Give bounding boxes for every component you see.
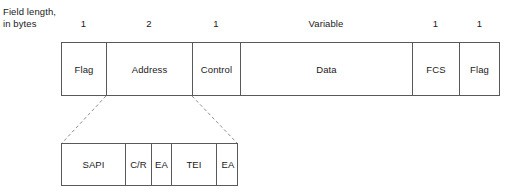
caption-line-1: Field length,: [3, 6, 56, 17]
sub-frame-cell-tei: TEI: [171, 144, 216, 185]
size-label-fcs: 1: [412, 18, 459, 29]
frame-cell-fcs: FCS: [412, 43, 459, 95]
field-length-caption: Field length,in bytes: [3, 6, 56, 30]
leader-line-left: [62, 96, 106, 143]
frame-cell-control: Control: [192, 43, 240, 95]
size-label-address: 2: [106, 18, 192, 29]
frame-cell-flag-2: Flag: [459, 43, 499, 95]
sub-frame-cell-cr: C/R: [125, 144, 151, 185]
size-label-flag-2: 1: [459, 18, 500, 29]
frame-cell-flag-1: Flag: [62, 43, 106, 95]
leader-line-right: [192, 96, 237, 143]
sub-frame-cell-ea-2: EA: [216, 144, 239, 185]
size-label-flag-1: 1: [61, 18, 106, 29]
frame-format-diagram: Field length,in bytes 1 2 1 Variable 1 1…: [0, 0, 507, 195]
size-label-data: Variable: [240, 18, 412, 29]
sub-frame-cell-sapi: SAPI: [62, 144, 125, 185]
caption-line-2: in bytes: [3, 18, 37, 29]
main-frame: Flag Address Control Data FCS Flag: [61, 42, 500, 96]
sub-frame-cell-ea-1: EA: [151, 144, 171, 185]
address-sub-frame: SAPI C/R EA TEI EA: [61, 143, 238, 186]
frame-cell-address: Address: [106, 43, 192, 95]
frame-cell-data: Data: [240, 43, 412, 95]
size-label-control: 1: [192, 18, 240, 29]
